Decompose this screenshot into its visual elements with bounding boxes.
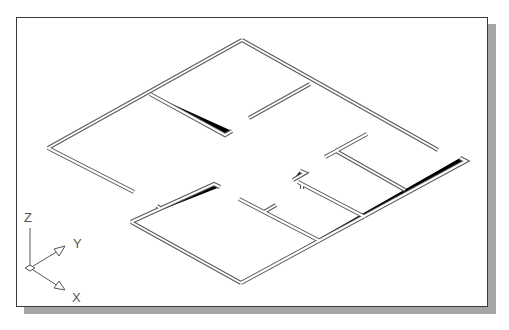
x-axis-line [30, 268, 58, 286]
y-axis-line [30, 251, 58, 268]
y-arrow-icon [54, 246, 65, 256]
y-axis-label: Y [73, 236, 82, 251]
z-axis-label: Z [24, 210, 32, 225]
walls [48, 40, 466, 283]
x-axis-label: X [72, 290, 81, 305]
floor-plan-drawing: Z Y X [0, 0, 509, 330]
x-arrow-icon [54, 281, 65, 290]
ucs-icon: Z Y X [24, 210, 82, 305]
